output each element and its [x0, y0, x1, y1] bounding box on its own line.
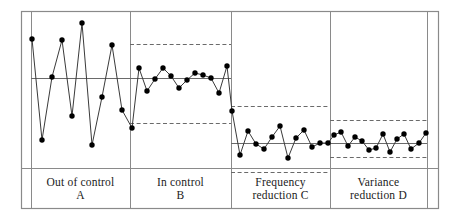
data-point [293, 135, 298, 140]
data-point [99, 94, 104, 99]
data-point [39, 137, 44, 142]
data-point [216, 90, 221, 95]
data-point [89, 142, 94, 147]
data-point [109, 42, 114, 47]
data-point [408, 146, 413, 151]
data-point [380, 131, 385, 136]
data-point [285, 155, 290, 160]
data-point [184, 77, 189, 82]
data-point [208, 75, 213, 80]
data-point [373, 145, 378, 150]
phase-label-c-line1: Frequency [255, 176, 305, 188]
data-point [416, 140, 421, 145]
data-point [160, 65, 165, 70]
data-point [277, 123, 282, 128]
data-point [224, 63, 229, 68]
data-point [69, 113, 74, 118]
data-point [301, 127, 306, 132]
data-point [269, 134, 274, 139]
phase-label-b-line1: In control [157, 176, 204, 188]
control-chart-figure: Out of control A In control B Frequency … [0, 0, 459, 219]
data-point [401, 131, 406, 136]
phase-label-c: Frequency reduction C [231, 176, 330, 201]
data-point [387, 149, 392, 154]
data-point [79, 20, 84, 25]
data-point [345, 143, 350, 148]
data-point [338, 129, 343, 134]
phase-label-a-line2: A [31, 189, 130, 202]
data-point [317, 140, 322, 145]
phase-label-a: Out of control A [31, 176, 130, 201]
data-point [309, 144, 314, 149]
data-point [245, 128, 250, 133]
data-point [168, 73, 173, 78]
data-point [29, 36, 34, 41]
data-point [200, 72, 205, 77]
data-point [237, 152, 242, 157]
data-point [119, 107, 124, 112]
data-point [129, 125, 134, 130]
data-point [253, 141, 258, 146]
data-point [176, 85, 181, 90]
data-point [59, 37, 64, 42]
phase-label-b-line2: B [130, 189, 231, 202]
data-point [152, 76, 157, 81]
phase-label-b: In control B [130, 176, 231, 201]
data-point [229, 108, 234, 113]
data-point [49, 74, 54, 79]
phase-label-d-line1: Variance [358, 176, 400, 188]
data-point [192, 70, 197, 75]
data-point [325, 140, 330, 145]
data-point [331, 132, 336, 137]
data-point [144, 88, 149, 93]
data-point [423, 130, 428, 135]
data-point [136, 65, 141, 70]
data-point [261, 146, 266, 151]
data-point [366, 147, 371, 152]
data-point [352, 134, 357, 139]
data-point [394, 136, 399, 141]
phase-label-d: Variance reduction D [330, 176, 427, 201]
data-point [359, 138, 364, 143]
phase-label-a-line1: Out of control [47, 176, 115, 188]
phase-label-c-line2: reduction C [231, 189, 330, 202]
phase-label-d-line2: reduction D [330, 189, 427, 202]
